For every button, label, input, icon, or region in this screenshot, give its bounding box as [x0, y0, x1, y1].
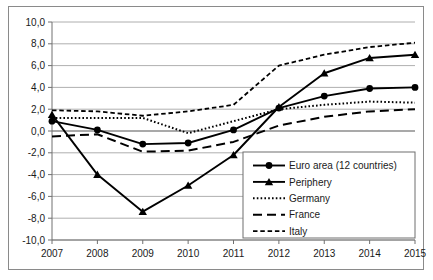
y-axis-tick-labels: 10,08,06,04,02,00,0-2,0-4,0-6,0-8,0-10,0	[22, 17, 45, 246]
series-line	[52, 87, 415, 144]
data-point	[139, 141, 146, 148]
data-point	[185, 140, 192, 147]
legend-item-label: Italy	[289, 226, 307, 237]
data-point	[48, 111, 56, 118]
legend-item-label: Germany	[289, 193, 330, 204]
y-tick-label: -4,0	[28, 169, 46, 180]
y-tick-label: 4,0	[31, 82, 45, 93]
data-point	[412, 84, 419, 91]
legend-item-label: Periphery	[289, 177, 332, 188]
data-point	[94, 127, 101, 134]
legend-item-label: Euro area (12 countries)	[289, 160, 397, 171]
x-tick-label: 2014	[359, 248, 382, 259]
x-tick-label: 2007	[41, 248, 64, 259]
y-tick-label: 10,0	[26, 17, 46, 28]
y-tick-label: -6,0	[28, 191, 46, 202]
legend-marker	[266, 162, 273, 169]
y-tick-label: 6,0	[31, 60, 45, 71]
y-tick-label: 2,0	[31, 104, 45, 115]
y-tick-label: -10,0	[22, 235, 45, 246]
x-tick-label: 2008	[86, 248, 109, 259]
x-tick-label: 2010	[177, 248, 200, 259]
data-point	[321, 93, 328, 100]
data-point	[366, 85, 373, 92]
series-line	[52, 43, 415, 116]
x-tick-label: 2012	[268, 248, 291, 259]
y-tick-label: -2,0	[28, 147, 46, 158]
y-tick-label: -8,0	[28, 213, 46, 224]
chart-legend: Euro area (12 countries)PeripheryGermany…	[243, 152, 415, 238]
legend-item-label: France	[289, 209, 321, 220]
series-euro-area-12-countries	[49, 84, 419, 147]
x-tick-label: 2011	[223, 248, 245, 259]
y-tick-label: 0,0	[31, 126, 45, 137]
y-tick-label: 8,0	[31, 38, 45, 49]
x-tick-label: 2015	[404, 248, 427, 259]
x-axis-tick-labels: 200720082009201020112012201320142015	[41, 248, 427, 259]
x-tick-label: 2009	[132, 248, 155, 259]
line-chart: 10,08,06,04,02,00,0-2,0-4,0-6,0-8,0-10,0…	[0, 0, 433, 280]
data-point	[230, 127, 237, 134]
x-tick-label: 2013	[313, 248, 336, 259]
chart-container: 10,08,06,04,02,00,0-2,0-4,0-6,0-8,0-10,0…	[0, 0, 433, 280]
series-italy	[52, 43, 415, 116]
